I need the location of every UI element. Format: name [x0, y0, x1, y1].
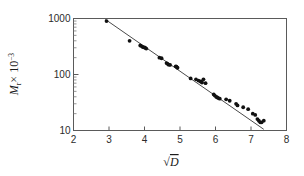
- figure-container: 101001000 2345678 √D Mr× 10−3: [0, 0, 304, 176]
- data-point: [128, 39, 132, 43]
- data-point: [105, 19, 109, 23]
- scatter-plot: 101001000 2345678 √D Mr× 10−3: [0, 0, 304, 176]
- data-point: [189, 77, 193, 81]
- data-point: [176, 66, 180, 70]
- x-tick-label: 7: [248, 134, 254, 145]
- data-point: [160, 56, 164, 60]
- y-tick-label: 10: [59, 125, 71, 136]
- x-tick-label: 2: [71, 134, 77, 145]
- y-tick-label: 1000: [48, 13, 71, 24]
- x-tick-label: 3: [106, 134, 112, 145]
- y-axis-exponent-glyph: −3: [7, 53, 16, 61]
- data-point: [204, 81, 208, 85]
- x-tick-label: 6: [213, 134, 219, 145]
- x-axis-title: √D: [163, 155, 179, 169]
- data-point: [241, 105, 245, 109]
- data-point: [262, 119, 266, 123]
- data-point: [236, 104, 240, 108]
- data-point: [168, 63, 172, 67]
- x-tick-label: 4: [142, 134, 148, 145]
- data-point: [224, 97, 228, 101]
- y-tick-label: 100: [54, 69, 71, 80]
- data-point: [246, 107, 250, 111]
- x-axis-variable-glyph: D: [169, 155, 179, 169]
- data-point: [144, 47, 148, 51]
- data-point: [202, 77, 206, 81]
- data-point: [253, 113, 257, 117]
- x-tick-label: 5: [177, 134, 183, 145]
- y-axis-times-glyph: × 10: [7, 61, 21, 83]
- x-tick-label: 8: [284, 134, 290, 145]
- data-point: [218, 97, 222, 101]
- data-point: [228, 99, 232, 103]
- plot-background: [0, 0, 304, 176]
- svg-text:√D: √D: [163, 155, 179, 169]
